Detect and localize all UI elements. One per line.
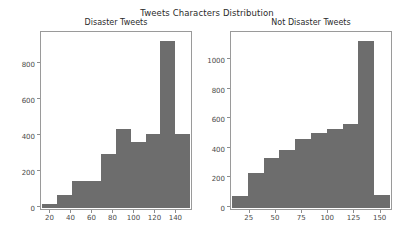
histogram-bar xyxy=(232,196,248,208)
histogram-bar xyxy=(72,181,87,208)
x-axis-tick-mark xyxy=(380,210,381,213)
plot-area-not-disaster xyxy=(230,31,392,210)
y-axis-tick-mark xyxy=(227,206,230,207)
y-axis-tick-mark xyxy=(37,170,40,171)
plot-area-disaster xyxy=(40,31,192,210)
histogram-bar xyxy=(327,129,343,208)
histogram-bar xyxy=(131,142,146,208)
subplot-not-disaster-tweets: Not Disaster Tweets 02004006008001000255… xyxy=(230,31,392,210)
subplot-disaster-tweets: Disaster Tweets 020040060080020406080100… xyxy=(40,31,192,210)
x-axis-tick-mark xyxy=(133,210,134,213)
y-axis-tick-mark xyxy=(227,88,230,89)
y-axis-tick-mark xyxy=(37,98,40,99)
histogram-bar xyxy=(343,124,359,208)
histogram-bar xyxy=(86,181,101,208)
figure-suptitle: Tweets Characters Distribution xyxy=(0,8,414,18)
histogram-bar xyxy=(279,150,295,208)
subplot-title-not-disaster: Not Disaster Tweets xyxy=(230,18,392,27)
subplot-title-disaster: Disaster Tweets xyxy=(40,18,192,27)
figure: Tweets Characters Distribution Disaster … xyxy=(0,0,414,235)
x-axis-tick-mark xyxy=(327,210,328,213)
x-axis-tick-mark xyxy=(301,210,302,213)
x-axis-tick-mark xyxy=(249,210,250,213)
y-axis-tick-mark xyxy=(227,147,230,148)
histogram-bar xyxy=(146,134,161,208)
y-axis-tick-mark xyxy=(227,117,230,118)
histogram-bar xyxy=(42,204,57,208)
histogram-bar xyxy=(248,173,264,208)
histogram-bar xyxy=(311,133,327,208)
histogram-bar xyxy=(57,195,72,208)
histogram-bar xyxy=(116,129,131,208)
x-axis-tick-mark xyxy=(275,210,276,213)
histogram-bars-disaster xyxy=(42,33,190,208)
histogram-bar xyxy=(175,134,190,208)
histogram-bar xyxy=(295,139,311,208)
x-axis-tick-mark xyxy=(49,210,50,213)
x-axis-tick-mark xyxy=(70,210,71,213)
histogram-bar xyxy=(374,195,390,208)
histogram-bar xyxy=(101,154,116,208)
y-axis-tick-mark xyxy=(227,58,230,59)
x-axis-tick-mark xyxy=(154,210,155,213)
x-axis-tick-mark xyxy=(353,210,354,213)
y-axis-tick-mark xyxy=(227,176,230,177)
histogram-bar xyxy=(160,41,175,208)
x-axis-tick-mark xyxy=(175,210,176,213)
histogram-bar xyxy=(358,41,374,208)
x-axis-tick-mark xyxy=(91,210,92,213)
histogram-bars-not-disaster xyxy=(232,33,390,208)
y-axis-tick-mark xyxy=(37,62,40,63)
x-axis-tick-mark xyxy=(112,210,113,213)
y-axis-tick-mark xyxy=(37,134,40,135)
y-axis-tick-mark xyxy=(37,206,40,207)
histogram-bar xyxy=(264,158,280,208)
